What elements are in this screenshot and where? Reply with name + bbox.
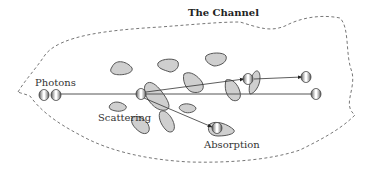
blob bbox=[179, 104, 196, 113]
blob bbox=[145, 82, 169, 110]
diagram-title: The Channel bbox=[188, 8, 259, 18]
photon-icon bbox=[243, 74, 253, 85]
blob bbox=[158, 59, 179, 72]
channel-diagram: The Channel Photons Scattering Absorptio… bbox=[0, 0, 376, 183]
absorption-path bbox=[144, 98, 212, 127]
photon-icon bbox=[39, 90, 49, 101]
scattering-label: Scattering bbox=[98, 113, 151, 123]
blob bbox=[183, 73, 203, 93]
blob bbox=[225, 80, 240, 101]
blob bbox=[159, 111, 174, 132]
scattered-out-path bbox=[254, 77, 302, 79]
channel-boundary bbox=[18, 16, 355, 162]
photon-icon bbox=[301, 72, 311, 83]
blob bbox=[109, 102, 126, 111]
photons-label: Photons bbox=[35, 78, 76, 88]
photon-icon bbox=[212, 123, 222, 134]
photon-icon bbox=[51, 90, 61, 101]
blob bbox=[205, 53, 226, 66]
absorption-label: Absorption bbox=[204, 140, 260, 150]
blob bbox=[111, 62, 133, 75]
photon-icon bbox=[136, 89, 146, 100]
photon-icon bbox=[311, 89, 321, 100]
